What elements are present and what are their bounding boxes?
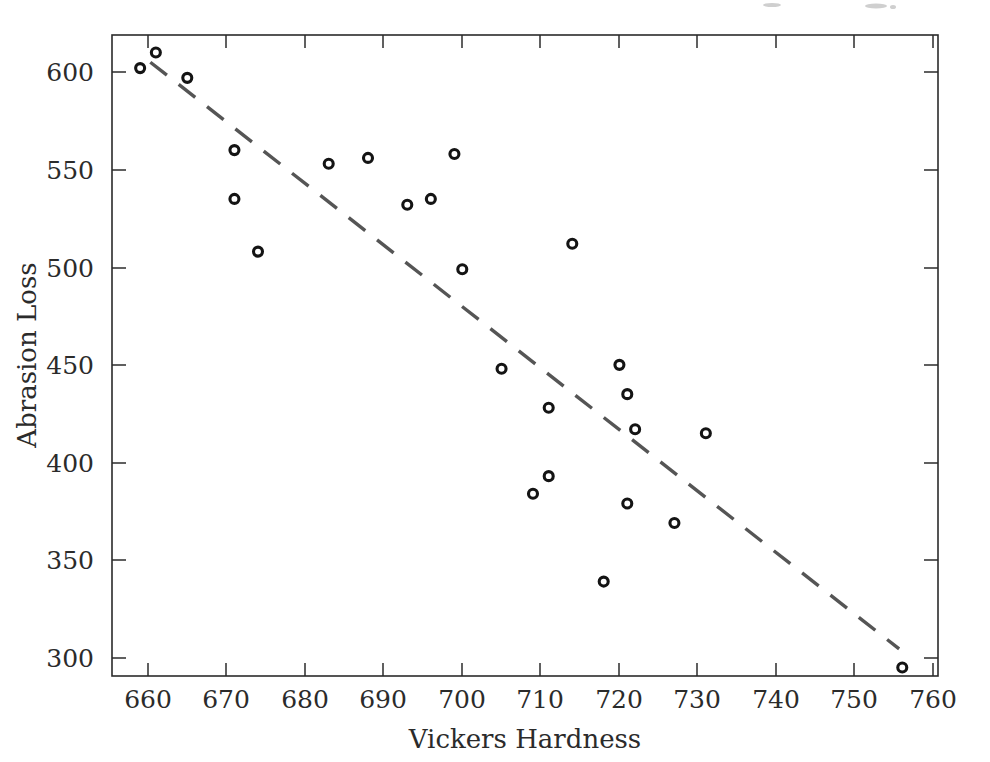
data-point: [324, 159, 333, 168]
data-point: [450, 150, 459, 159]
x-tick-label: 720: [595, 685, 643, 714]
data-point: [230, 194, 239, 203]
y-tick-label: 550: [46, 156, 94, 185]
x-tick-label: 710: [516, 685, 564, 714]
y-tick-label: 300: [46, 644, 94, 673]
data-point: [898, 663, 907, 672]
plot-svg: 660 670 680 690 700 710 720 730 740 750 …: [0, 0, 990, 762]
data-point: [497, 364, 506, 373]
x-tick-label: 680: [281, 685, 329, 714]
data-point: [544, 472, 553, 481]
x-tick-label: 700: [438, 685, 486, 714]
data-point: [631, 425, 640, 434]
x-axis-title: Vickers Hardness: [408, 724, 641, 754]
data-point: [136, 64, 145, 73]
y-tick-label: 350: [46, 546, 94, 575]
x-tick-label: 750: [830, 685, 878, 714]
data-point: [670, 519, 679, 528]
scan-artifacts: [763, 3, 896, 9]
y-tick-label: 600: [46, 58, 94, 87]
x-tick-labels: 660 670 680 690 700 710 720 730 740 750 …: [124, 685, 957, 714]
trend-line-dashed: [150, 62, 899, 649]
y-tick-label: 400: [46, 449, 94, 478]
x-tick-label: 760: [909, 685, 957, 714]
x-tick-label: 740: [752, 685, 800, 714]
data-point: [230, 146, 239, 155]
data-point: [544, 403, 553, 412]
scatter-plot-figure: 660 670 680 690 700 710 720 730 740 750 …: [0, 0, 990, 762]
data-point: [364, 153, 373, 162]
y-tick-label: 450: [46, 351, 94, 380]
data-point: [623, 499, 632, 508]
x-tick-label: 730: [673, 685, 721, 714]
data-point: [568, 239, 577, 248]
data-point: [426, 194, 435, 203]
data-point: [183, 73, 192, 82]
x-tick-label: 670: [202, 685, 250, 714]
data-point: [701, 429, 710, 438]
y-axis-ticks: [112, 72, 938, 658]
data-point: [254, 247, 263, 256]
data-point: [623, 390, 632, 399]
y-tick-label: 500: [46, 254, 94, 283]
data-point: [528, 489, 537, 498]
y-tick-labels: 300 350 400 450 500 550 600: [46, 58, 94, 673]
data-point: [151, 48, 160, 57]
x-axis-ticks: [148, 35, 933, 676]
x-tick-label: 660: [124, 685, 172, 714]
x-tick-label: 690: [359, 685, 407, 714]
y-axis-title: Abrasion Loss: [12, 262, 42, 448]
data-point: [599, 577, 608, 586]
data-point: [458, 265, 467, 274]
data-point: [403, 200, 412, 209]
data-point: [615, 360, 624, 369]
